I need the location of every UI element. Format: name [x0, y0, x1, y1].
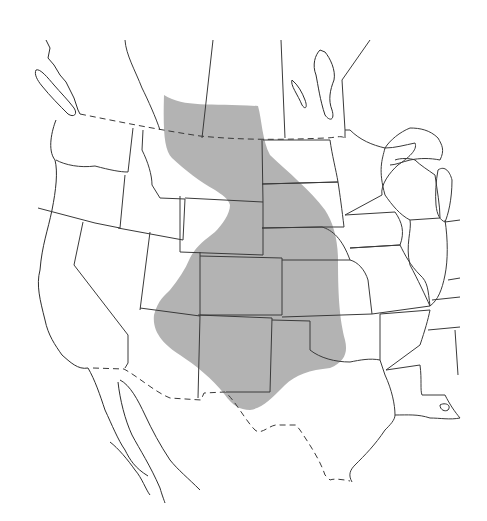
manitoba-ontario-boundary [342, 40, 370, 130]
alberta-bc-boundary [125, 40, 160, 130]
california-nevada-boundary [74, 222, 128, 368]
oregon-boundary [38, 175, 125, 228]
louisiana-boundary [386, 365, 460, 419]
mississippi-delta [440, 404, 449, 411]
baja-peninsula [110, 442, 150, 495]
texas-boundary [350, 360, 395, 482]
bc-coastline [46, 40, 80, 114]
mississippi-alabama-boundary [455, 330, 458, 375]
tennessee-mississippi-boundary [428, 327, 460, 330]
indiana-kentucky-boundary [445, 220, 460, 222]
illinois-boundary [408, 220, 447, 306]
vancouver-island [35, 70, 75, 116]
washington-boundary [56, 128, 133, 172]
iowa-boundary [345, 212, 402, 248]
minnesota-boundary [345, 130, 416, 215]
gulf-of-california [118, 382, 165, 503]
arkansas-boundary [380, 310, 430, 370]
nevada-utah-boundary [140, 232, 150, 310]
pacific-coastline [38, 120, 148, 476]
lake-winnipeg [314, 50, 334, 119]
lake-manitoba [292, 80, 307, 108]
indiana-ohio-boundary [448, 278, 460, 280]
saskatchewan-manitoba-boundary [281, 40, 285, 138]
michigan-upper-peninsula [385, 128, 443, 165]
range-map [0, 0, 487, 521]
